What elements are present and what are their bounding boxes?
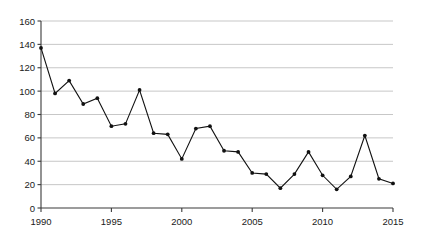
data-point (208, 124, 212, 128)
data-point (110, 124, 114, 128)
y-tick-label: 100 (19, 86, 35, 97)
x-tick-label: 2000 (171, 216, 192, 227)
chart-canvas: 020406080100120140160 199019952000200520… (0, 0, 424, 241)
data-point (222, 149, 226, 153)
y-tick-label: 40 (24, 156, 35, 167)
data-point (53, 92, 57, 96)
y-tick-label: 0 (30, 203, 35, 214)
data-point (194, 127, 198, 131)
data-point (250, 171, 254, 175)
data-point (152, 131, 156, 135)
data-point (236, 150, 240, 154)
data-point (321, 173, 325, 177)
x-tick-label: 1995 (101, 216, 122, 227)
data-point (95, 96, 99, 100)
data-point (138, 88, 142, 92)
data-point (307, 150, 311, 154)
data-point (81, 102, 85, 106)
data-point (349, 175, 353, 179)
y-tick-label: 160 (19, 16, 35, 27)
y-tick-label: 140 (19, 39, 35, 50)
x-tick-label: 2010 (312, 216, 333, 227)
data-point (166, 132, 170, 136)
data-point (278, 186, 282, 190)
line-chart: 020406080100120140160 199019952000200520… (0, 0, 424, 241)
y-tick-label: 80 (24, 109, 35, 120)
data-point (335, 187, 339, 191)
chart-background (0, 0, 424, 241)
y-tick-label: 60 (24, 132, 35, 143)
data-point (180, 157, 184, 161)
data-point (293, 172, 297, 176)
data-point (39, 46, 43, 50)
x-tick-label: 2005 (242, 216, 263, 227)
data-point (67, 79, 71, 83)
y-tick-label: 120 (19, 62, 35, 73)
data-point (264, 172, 268, 176)
data-point (377, 177, 381, 181)
x-tick-label: 1990 (30, 216, 51, 227)
data-point (391, 182, 395, 186)
y-tick-label: 20 (24, 179, 35, 190)
x-tick-label: 2015 (382, 216, 403, 227)
data-point (124, 122, 128, 126)
data-point (363, 134, 367, 138)
